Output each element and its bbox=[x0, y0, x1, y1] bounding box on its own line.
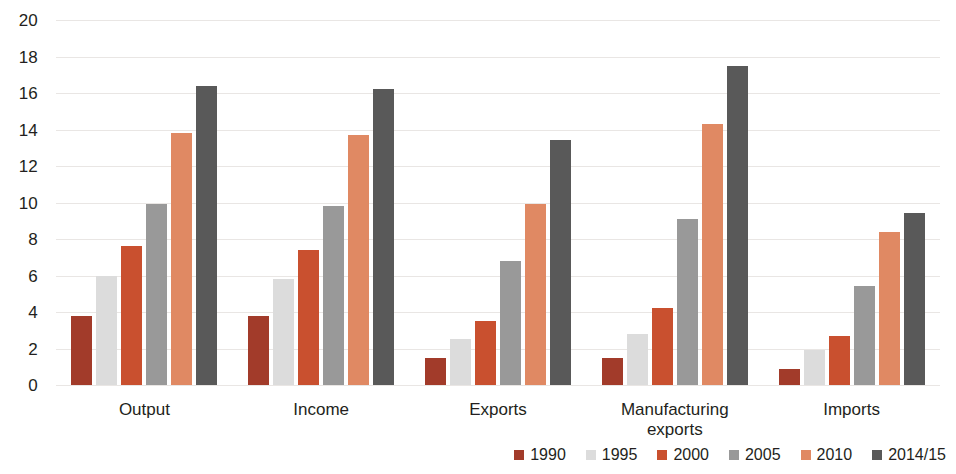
bar-groups bbox=[56, 20, 940, 385]
bar-group bbox=[410, 20, 587, 385]
legend-label: 2000 bbox=[673, 447, 709, 463]
bars bbox=[410, 20, 587, 385]
plot-area bbox=[56, 20, 940, 385]
legend-item[interactable]: 1995 bbox=[586, 447, 638, 463]
bar bbox=[627, 334, 648, 385]
bar bbox=[196, 86, 217, 385]
bar bbox=[146, 204, 167, 385]
bar bbox=[248, 316, 269, 385]
legend-swatch-icon bbox=[586, 450, 596, 460]
y-axis-tick: 18 bbox=[19, 48, 38, 65]
bar bbox=[71, 316, 92, 385]
bar bbox=[96, 276, 117, 386]
x-axis-label: Output bbox=[56, 388, 233, 436]
legend-item[interactable]: 2000 bbox=[657, 447, 709, 463]
y-axis-tick: 10 bbox=[19, 194, 38, 211]
bar bbox=[525, 204, 546, 385]
bar bbox=[373, 89, 394, 385]
gridline bbox=[56, 385, 940, 386]
bar bbox=[677, 219, 698, 385]
legend-item[interactable]: 2014/15 bbox=[872, 447, 946, 463]
y-axis-tick: 12 bbox=[19, 158, 38, 175]
legend-label: 1990 bbox=[530, 447, 566, 463]
x-axis-labels: OutputIncomeExportsManufacturing exports… bbox=[56, 388, 940, 436]
legend-label: 2005 bbox=[745, 447, 781, 463]
bar bbox=[702, 124, 723, 385]
legend-swatch-icon bbox=[801, 450, 811, 460]
bar bbox=[727, 66, 748, 385]
legend-item[interactable]: 2005 bbox=[729, 447, 781, 463]
legend: 199019952000200520102014/15 bbox=[0, 447, 954, 463]
y-axis-tick: 16 bbox=[19, 85, 38, 102]
bar bbox=[171, 133, 192, 385]
bar bbox=[273, 279, 294, 385]
x-axis-label: Income bbox=[233, 388, 410, 436]
y-axis-tick: 6 bbox=[28, 267, 38, 284]
legend-swatch-icon bbox=[729, 450, 739, 460]
bar-group bbox=[56, 20, 233, 385]
bar bbox=[450, 339, 471, 385]
bar bbox=[348, 135, 369, 385]
y-axis-tick: 14 bbox=[19, 121, 38, 138]
bar bbox=[602, 358, 623, 385]
bar-group bbox=[233, 20, 410, 385]
legend-label: 1995 bbox=[602, 447, 638, 463]
bar bbox=[879, 232, 900, 385]
x-axis-label: Manufacturing exports bbox=[586, 388, 763, 436]
bar bbox=[425, 358, 446, 385]
y-axis: 20181614121086420 bbox=[0, 20, 48, 385]
bar bbox=[121, 246, 142, 385]
bar bbox=[323, 206, 344, 385]
legend-label: 2014/15 bbox=[888, 447, 946, 463]
bar bbox=[652, 308, 673, 385]
legend-swatch-icon bbox=[514, 450, 524, 460]
bars bbox=[763, 20, 940, 385]
legend-swatch-icon bbox=[657, 450, 667, 460]
y-axis-tick: 4 bbox=[28, 304, 38, 321]
bar bbox=[500, 261, 521, 385]
y-axis-tick: 20 bbox=[19, 12, 38, 29]
legend-swatch-icon bbox=[872, 450, 882, 460]
x-axis-label: Exports bbox=[410, 388, 587, 436]
y-axis-tick: 2 bbox=[28, 340, 38, 357]
bar bbox=[298, 250, 319, 385]
bar bbox=[475, 321, 496, 385]
x-axis-label: Imports bbox=[763, 388, 940, 436]
bar bbox=[550, 140, 571, 385]
bar bbox=[904, 213, 925, 385]
bars bbox=[586, 20, 763, 385]
bars bbox=[56, 20, 233, 385]
legend-item[interactable]: 1990 bbox=[514, 447, 566, 463]
bars bbox=[233, 20, 410, 385]
y-axis-tick: 0 bbox=[28, 377, 38, 394]
bar-group bbox=[763, 20, 940, 385]
bar bbox=[829, 336, 850, 385]
bar-chart: 20181614121086420 OutputIncomeExportsMan… bbox=[0, 0, 956, 474]
legend-label: 2010 bbox=[817, 447, 853, 463]
legend-item[interactable]: 2010 bbox=[801, 447, 853, 463]
bar bbox=[854, 286, 875, 385]
bar-group bbox=[586, 20, 763, 385]
bar bbox=[779, 369, 800, 385]
y-axis-tick: 8 bbox=[28, 231, 38, 248]
bar bbox=[804, 350, 825, 385]
